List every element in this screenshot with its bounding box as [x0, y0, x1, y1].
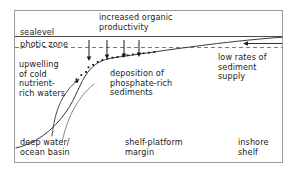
label-increased-organic-productivity: increased organic productivity — [99, 13, 173, 32]
label-sealevel: sealevel — [20, 28, 54, 38]
label-deposition-of-phosphate-rich-sediments: deposition of phosphate-rich sediments — [110, 69, 172, 98]
label-inshore-shelf: inshore shelf — [238, 138, 269, 157]
label-photic-zone: photic zone — [20, 40, 68, 50]
label-low-rates-of-sediment-supply: low rates of sediment supply — [218, 53, 267, 82]
label-deep-water-ocean-basin: deep water/ ocean basin — [20, 138, 70, 157]
figure-canvas: increased organic productivity sealevel … — [0, 0, 294, 175]
label-upwelling-of-cold-nutrient-rich-waters: upwelling of cold nutrient- rich waters — [19, 60, 65, 98]
label-shelf-platform-margin: shelf-platform margin — [125, 138, 183, 157]
